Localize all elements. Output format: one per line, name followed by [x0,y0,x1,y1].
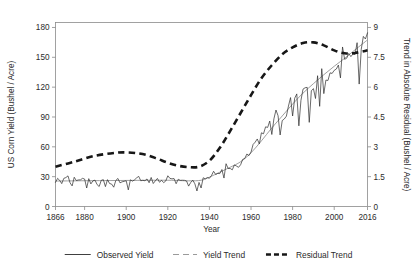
legend-label-residual-trend: Residual Trend [296,250,353,260]
y-tick-label: 90 [40,113,50,122]
series-observed-yield [56,33,368,191]
y-tick-label: 0 [45,203,50,212]
y2-tick-label: 1.5 [374,173,386,182]
y-tick-label: 30 [40,173,50,182]
plot-frame [56,23,368,207]
x-tick-label: 1900 [117,213,136,222]
x-tick-label: 1980 [284,213,303,222]
x-tick-label: 1920 [159,213,178,222]
y2-tick-label: 7.5 [374,53,386,62]
x-tick-label: 1866 [46,213,65,222]
corn-yield-chart: 1866188019001920194019601980200020160306… [0,0,416,270]
x-tick-label: 1880 [76,213,95,222]
legend-label-yield-trend: Yield Trend [203,250,245,260]
y-tick-label: 120 [36,83,50,92]
y2-tick-label: 0 [374,203,379,212]
x-tick-label: 1960 [242,213,261,222]
x-tick-label: 2016 [358,213,377,222]
y2-tick-label: 3 [374,143,379,152]
y-tick-label: 150 [36,53,50,62]
chart-figure: 1866188019001920194019601980200020160306… [0,0,416,270]
y2-axis-title: Trend in Absolute Residual (Bushel / Acr… [402,38,411,192]
legend-label-observed-yield: Observed Yield [97,250,154,260]
y-tick-label: 60 [40,143,50,152]
y-axis-title: US Corn Yield (Bushel / Acre) [7,61,16,169]
x-tick-label: 1940 [200,213,219,222]
y2-tick-label: 4.5 [374,113,386,122]
y-tick-label: 180 [36,23,50,32]
x-axis-title: Year [203,225,220,234]
x-tick-label: 2000 [325,213,344,222]
y2-tick-label: 9 [374,23,379,32]
series-residual-trend [56,42,368,167]
y2-tick-label: 6 [374,83,379,92]
